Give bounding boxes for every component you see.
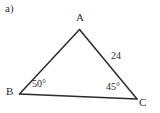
angle-label-b: 50° bbox=[32, 79, 46, 89]
angle-label-c: 45° bbox=[106, 82, 120, 92]
side-ab bbox=[20, 30, 80, 95]
triangle-figure: a) A B C 24 50° 45° bbox=[0, 0, 160, 113]
vertex-label-a: A bbox=[76, 12, 84, 23]
side-length-label-ac: 24 bbox=[111, 51, 121, 61]
part-label: a) bbox=[5, 3, 14, 14]
vertex-label-c: C bbox=[139, 97, 146, 108]
vertex-label-b: B bbox=[6, 86, 13, 97]
side-bc bbox=[20, 94, 138, 99]
